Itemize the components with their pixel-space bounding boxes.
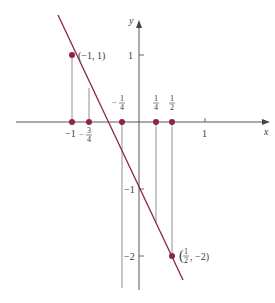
- x-axis-label: x: [263, 126, 269, 137]
- y-axis-arrow-icon: [136, 20, 142, 28]
- x-axis-arrow-icon: [262, 119, 270, 125]
- x-tick-label-14-num: 1: [154, 94, 158, 103]
- x-tick-label-14-den: 4: [154, 103, 158, 112]
- x-tick-label-neg34-sign: −: [79, 130, 84, 139]
- axis-point-neg34: [86, 119, 92, 125]
- point-label-half-neg2-num: 1: [184, 247, 188, 256]
- x-tick-label-neg14-num: 1: [120, 94, 124, 103]
- coordinate-plane: x y −1 − 3 4 − 1 4 1 4 1 2 1 1 −1 −2 (−1…: [0, 0, 275, 303]
- y-tick-label-neg2: −2: [124, 251, 135, 262]
- x-tick-label-neg1: −1: [65, 128, 76, 139]
- axis-point-neg1: [69, 119, 75, 125]
- point-neg1-1: [69, 52, 75, 58]
- axis-point-12: [169, 119, 175, 125]
- y-axis-label: y: [128, 15, 134, 26]
- x-tick-label-12-den: 2: [170, 103, 174, 112]
- x-tick-label-12-num: 1: [170, 94, 174, 103]
- line-y-eq-neg2x-minus1: [58, 15, 183, 280]
- axis-point-14: [153, 119, 159, 125]
- x-tick-label-neg14-sign: −: [112, 98, 117, 107]
- point-label-half-neg2-rest: , −2): [190, 251, 209, 263]
- point-label-neg1-1: (−1, 1): [78, 50, 105, 62]
- point-label-half-neg2-den: 2: [184, 256, 188, 265]
- x-tick-label-1: 1: [202, 128, 207, 139]
- x-tick-label-neg14-den: 4: [120, 103, 124, 112]
- x-tick-label-neg34-den: 4: [87, 135, 91, 144]
- point-half-neg2: [169, 253, 175, 259]
- y-tick-label-1: 1: [128, 50, 133, 61]
- x-tick-label-neg34-num: 3: [87, 126, 91, 135]
- axis-point-neg14: [119, 119, 125, 125]
- y-tick-label-neg1: −1: [124, 184, 135, 195]
